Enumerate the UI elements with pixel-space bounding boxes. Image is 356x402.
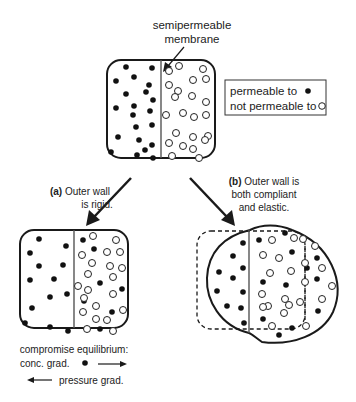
pressure-gradient-arrow-left: [27, 377, 52, 383]
elastic-result: [197, 226, 337, 343]
branch-b-line3: and elastic.: [239, 202, 290, 213]
branch-b-prefix: (b): [229, 176, 242, 187]
open-solute-dots: [259, 235, 336, 330]
rigid-result-box: [20, 230, 128, 335]
legend-permeable-label: permeable to: [230, 85, 297, 97]
branch-a-line2: is rigid.: [81, 199, 113, 210]
filled-dot-icon: [305, 88, 311, 94]
caption-a-line2: conc. grad.: [20, 358, 69, 369]
membrane-label-line2: membrane: [165, 33, 220, 45]
filled-dot-icon: [82, 360, 88, 366]
initial-state-box: [107, 60, 215, 162]
branch-b-line2: both compliant: [231, 189, 296, 200]
open-solute-dots: [163, 63, 212, 162]
membrane-label-line1: semipermeable: [153, 19, 232, 31]
conc-gradient-arrow-right: [98, 361, 127, 367]
osmosis-diagram: semipermeable membrane: [0, 0, 356, 402]
legend-not-permeable-label: not permeable to: [230, 100, 316, 112]
branch-b-line1: (b) Outer wall is: [229, 176, 300, 187]
caption-a-line1: compromise equilibrium:: [20, 344, 128, 355]
filled-solute-dots: [108, 64, 156, 161]
caption-a-line3: pressure grad.: [59, 375, 123, 386]
legend: permeable to not permeable to: [225, 80, 326, 115]
caption-a: compromise equilibrium: conc. grad. pres…: [20, 344, 128, 386]
open-dot-icon: [319, 103, 326, 110]
branch-a-line1: (a) Outer wall: [50, 186, 110, 197]
original-wall-outline: [197, 231, 305, 329]
branch-a-prefix: (a): [50, 186, 62, 197]
